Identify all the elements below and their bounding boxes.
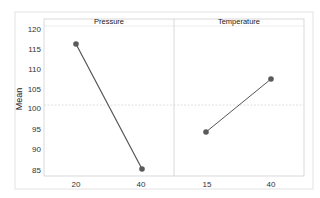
data-point [268,76,274,82]
panel-title-pressure: Pressure [94,17,124,26]
chart-svg: Pressure Temperature 120 115 110 105 100… [0,0,320,198]
y-tick: 115 [28,45,41,54]
x-tick-pressure-20: 20 [72,180,81,189]
panel-title-temperature: Temperature [218,17,260,26]
main-effects-plot: Pressure Temperature 120 115 110 105 100… [0,0,320,198]
y-tick: 105 [28,85,42,94]
data-point [203,129,209,135]
x-tick-pressure-40: 40 [137,180,146,189]
y-tick: 120 [28,25,42,34]
y-tick: 90 [32,145,41,154]
y-tick: 85 [32,166,41,175]
x-tick-temperature-15: 15 [203,180,212,189]
y-tick: 110 [28,65,41,74]
y-tick: 95 [32,125,41,134]
x-tick-temperature-40: 40 [267,180,276,189]
y-axis-label: Mean [14,88,24,111]
data-point [139,166,145,172]
y-tick: 100 [28,104,42,113]
data-point [73,41,79,47]
